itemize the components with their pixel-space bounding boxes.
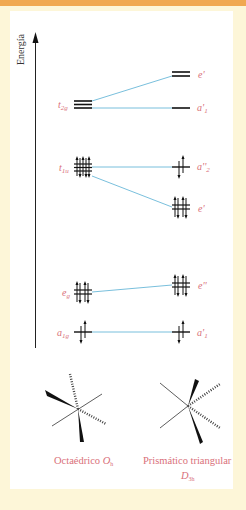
label-a1g: a1g <box>57 327 70 340</box>
level-e-prime-top <box>172 72 190 76</box>
caption-octahedral: Octaédrico Oh <box>54 455 113 467</box>
level-a1g <box>74 320 92 344</box>
level-a1-prime-bottom <box>172 320 190 344</box>
mo-diagram: Energía t2g t1u <box>0 0 246 510</box>
level-e-double-prime <box>172 274 190 297</box>
energy-axis: Energía <box>15 32 39 348</box>
level-eg <box>74 281 92 304</box>
level-a2-double-prime <box>172 155 190 179</box>
label-e-prime-top: e' <box>198 69 205 80</box>
label-a1-prime-top: a'1 <box>197 102 208 115</box>
octahedral-geometry-icon <box>45 374 106 442</box>
caption-d3h: D3h <box>180 470 195 482</box>
label-a2-double-prime: a''2 <box>197 161 210 174</box>
trigonal-prismatic-geometry-icon <box>160 379 220 444</box>
label-t1u: t1u <box>59 162 69 175</box>
axis-label: Energía <box>15 34 26 65</box>
label-e-double-prime: e'' <box>198 280 208 291</box>
label-eg: eg <box>62 287 70 300</box>
caption-trigonal-prismatic: Prismático triangular <box>143 455 232 466</box>
level-t2g <box>74 101 92 108</box>
correlation-lines <box>92 76 172 332</box>
level-e-prime-lower <box>172 196 190 219</box>
label-t2g: t2g <box>58 99 68 112</box>
label-e-prime-lower: e' <box>198 203 205 214</box>
label-a1-prime-bottom: a'1 <box>197 327 208 340</box>
level-t1u <box>74 156 92 178</box>
